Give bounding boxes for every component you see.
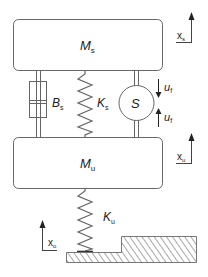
force-bottom-label: uf (164, 111, 172, 124)
unsprung-displacement-label: xu (177, 151, 185, 163)
quarter-car-diagram: Ms Mu Bs Ks S uf (0, 0, 208, 277)
actuator-label: S (131, 96, 140, 111)
sprung-displacement-label: xs (177, 30, 185, 42)
sprung-mass-block: Ms (14, 20, 163, 71)
force-top-label: uf (164, 81, 172, 94)
force-arrow-up-icon (156, 108, 162, 127)
damper (30, 71, 47, 137)
tire-spring (78, 188, 92, 251)
suspension-spring (78, 71, 92, 137)
tire-spring-label: Ku (103, 210, 115, 225)
road-displacement-label: xo (48, 237, 57, 249)
suspension-spring-label: Ks (97, 96, 109, 111)
unsprung-mass-block: Mu (14, 138, 163, 189)
damper-label: Bs (52, 96, 64, 111)
force-arrow-down-icon (156, 79, 162, 98)
